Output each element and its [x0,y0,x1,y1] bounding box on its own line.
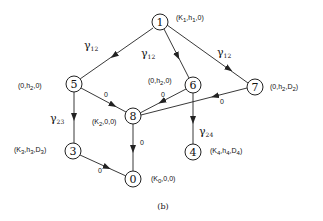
node-0: 0 [125,171,141,187]
tuple-node-4: (K4,h4,D4) [210,147,242,156]
tuple-node-1: (K1,h1,0) [176,14,204,23]
tuple-node-8: (K2,0,0) [92,118,116,127]
edge-label-5-3: γ23 [50,112,64,125]
edge-3-0-arrow [104,166,107,167]
edge-1-7 [167,25,248,83]
svg-text:4: 4 [190,146,197,159]
svg-text:8: 8 [130,110,137,123]
edge-7-8-arrow [215,95,218,96]
edge-label-8-0: 0 [140,139,144,146]
node-8: 8 [125,108,141,124]
edge-label-3-0: 0 [98,167,102,174]
edge-label-6-4: γ24 [199,125,213,138]
edge-label-5-8: 0 [104,91,108,98]
tuple-node-5: (0,h2,0) [18,82,42,91]
edge-label-1-7: γ12 [217,46,231,59]
node-3: 3 [65,143,81,159]
edge-label-1-6: γ12 [141,47,155,60]
tuple-node-7: (0,h2,D2) [270,83,298,92]
svg-text:0: 0 [130,173,137,186]
tuple-node-6: (0,h2,0) [148,77,172,86]
node-6: 6 [185,77,201,93]
svg-text:5: 5 [71,78,78,91]
figure-caption: (b) [157,202,168,211]
node-7: 7 [247,79,263,95]
svg-text:1: 1 [157,16,164,29]
node-tuples: (K1,h1,0) (0,h2,0) (0,h2,0) (0,h2,D2) (K… [14,14,298,184]
edge-label-6-8: 0 [161,91,165,98]
graph-diagram: γ12 γ12 γ12 0 0 0 γ23 γ24 0 0 1 5 6 7 8 … [0,0,323,221]
edge-3-0 [80,155,126,176]
svg-text:6: 6 [190,79,197,92]
node-1: 1 [152,14,168,30]
svg-text:7: 7 [252,81,259,94]
node-5: 5 [66,76,82,92]
edge-label-7-8: 0 [220,98,224,105]
edge-label-1-5: γ12 [84,39,98,52]
svg-text:3: 3 [70,145,77,158]
tuple-node-0: (K0,0,0) [151,175,175,184]
node-4: 4 [185,144,201,160]
edge-5-8-arrow [110,104,113,106]
tuple-node-3: (K3,h3,D3) [14,146,46,155]
